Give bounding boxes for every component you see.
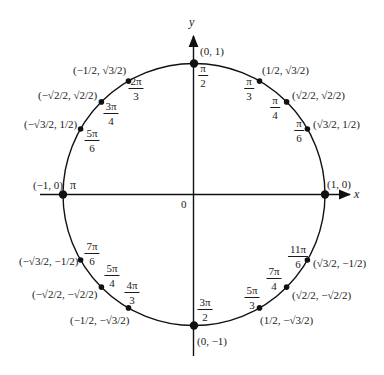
denominator: 4 [272,108,278,121]
point-7pi4 [284,284,290,290]
origin-label: 0 [181,198,187,210]
angle-label-11pi6: 11π6 [288,244,308,270]
numerator: 4π [124,280,139,293]
numerator: 5π [104,263,119,276]
numerator: 7π [84,241,99,254]
denominator: 6 [89,254,95,267]
coord-label-7pi6: (−√3/2, −1/2) [19,255,78,267]
coord-label-3pi4: (−√2/2, √2/2) [38,89,97,101]
point-7pi6 [78,257,84,263]
coord-label-4pi3: (−1/2, −√3/2) [70,314,129,326]
point-pi6 [305,126,311,132]
point-5pi4 [99,284,105,290]
denominator: 4 [108,114,114,127]
coord-label-pi2: (0, 1) [200,45,224,57]
angle-label-3pi4: 3π4 [103,101,118,127]
numerator: π [270,95,280,108]
coord-label-pi: (−1, 0) [33,179,63,191]
coord-label-5pi6: (−√3/2, 1/2) [24,118,77,130]
angle-label-pi2: π2 [198,63,208,89]
denominator: 3 [129,293,135,306]
denominator: 6 [295,257,301,270]
coord-label-3pi2: (0, −1) [197,335,227,347]
numerator: 5π [244,285,259,298]
coord-label-5pi3: (1/2, −√3/2) [260,314,313,326]
numerator: 2π [128,76,143,89]
angle-label-4pi3: 4π3 [124,280,139,306]
coord-label-5pi4: (−√2/2, −√2/2) [32,288,97,300]
angle-label-3pi2: 3π2 [197,297,212,323]
point-0 [321,190,329,198]
coord-label-0: (1, 0) [327,178,351,190]
angle-label-pi4: π4 [270,95,280,121]
coord-label-11pi6: (√3/2, −1/2) [313,257,366,269]
angle-label-7pi4: 7π4 [266,266,281,292]
denominator: 4 [109,276,115,289]
angle-label-2pi3: 2π3 [128,76,143,102]
numerator: 3π [197,297,212,310]
angle-label-pi6: π6 [294,118,304,144]
coord-label-2pi3: (−1/2, √3/2) [73,64,126,76]
point-pi3 [257,78,263,84]
denominator: 3 [249,298,255,311]
angle-label-5pi4: 5π4 [104,263,119,289]
coord-label-pi4: (√2/2, √2/2) [292,89,345,101]
coord-label-pi3: (1/2, √3/2) [262,64,309,76]
numerator: π [294,118,304,131]
numerator: 7π [266,266,281,279]
denominator: 2 [202,310,208,323]
point-pi4 [284,99,290,105]
denominator: 6 [89,141,95,154]
numerator: π [244,76,254,89]
point-pi2 [190,59,198,67]
denominator: 3 [133,89,139,102]
numerator: π [198,63,208,76]
numerator: 5π [84,128,99,141]
coord-label-7pi4: (√2/2, −√2/2) [292,289,351,301]
x-axis-label: x [354,187,359,202]
angle-label-5pi6: 5π6 [84,128,99,154]
point-5pi6 [78,126,84,132]
angle-label-7pi6: 7π6 [84,241,99,267]
numerator: 3π [103,101,118,114]
angle-label-5pi3: 5π3 [244,285,259,311]
angle-label-pi: π [70,178,76,193]
y-axis-label: y [189,15,194,30]
numerator: 11π [288,244,308,257]
angle-label-pi3: π3 [244,76,254,102]
denominator: 4 [271,279,277,292]
denominator: 6 [296,131,302,144]
denominator: 3 [246,89,252,102]
coord-label-pi6: (√3/2, 1/2) [313,118,360,130]
point-pi [59,190,67,198]
denominator: 2 [200,76,206,89]
